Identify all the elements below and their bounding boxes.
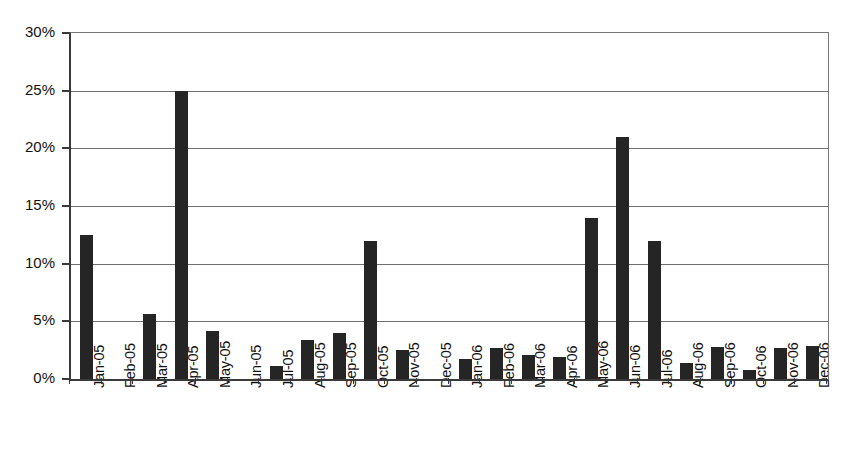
y-axis-label: 10% bbox=[0, 254, 55, 271]
bar bbox=[648, 241, 661, 379]
y-axis-label: 15% bbox=[0, 196, 55, 213]
bar bbox=[396, 350, 409, 379]
y-axis-label: 5% bbox=[0, 311, 55, 328]
bar bbox=[806, 346, 819, 379]
y-axis-tick bbox=[62, 90, 69, 92]
y-axis-tick bbox=[62, 263, 69, 265]
bar bbox=[680, 363, 693, 379]
bar bbox=[616, 137, 629, 379]
y-axis-tick bbox=[62, 147, 69, 149]
plot-area bbox=[69, 32, 829, 381]
y-axis-label: 30% bbox=[0, 23, 55, 40]
bar bbox=[459, 359, 472, 379]
chart-title bbox=[110, 0, 810, 3]
y-axis-tick bbox=[62, 32, 69, 34]
y-axis-tick bbox=[62, 205, 69, 207]
y-axis-tick bbox=[62, 378, 69, 380]
bar bbox=[206, 331, 219, 379]
bar bbox=[175, 91, 188, 379]
bar bbox=[333, 333, 346, 379]
bar bbox=[743, 370, 756, 379]
bar bbox=[143, 314, 156, 379]
bar bbox=[364, 241, 377, 379]
bar bbox=[711, 347, 724, 379]
y-axis-label: 0% bbox=[0, 369, 55, 386]
bar bbox=[490, 348, 503, 379]
bar bbox=[553, 357, 566, 379]
bar bbox=[270, 366, 283, 379]
bar bbox=[80, 235, 93, 379]
y-axis-tick bbox=[62, 320, 69, 322]
y-axis-label: 20% bbox=[0, 138, 55, 155]
bar bbox=[774, 348, 787, 379]
bar bbox=[301, 340, 314, 379]
bar bbox=[585, 218, 598, 379]
y-axis-label: 25% bbox=[0, 81, 55, 98]
bar-chart: 0%5%10%15%20%25%30% Jan-05Feb-05Mar-05Ap… bbox=[0, 0, 846, 469]
bar bbox=[522, 355, 535, 379]
